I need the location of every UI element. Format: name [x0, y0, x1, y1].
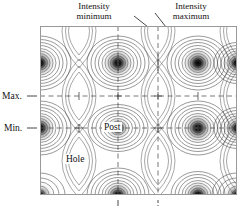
region-label-hole: Hole: [64, 154, 86, 164]
contour-plot-area: Post Hole: [40, 26, 237, 195]
leader-line-maximum: [155, 13, 166, 27]
contour-plot-svg: [40, 26, 237, 195]
blob-core-158-37: [181, 47, 215, 79]
region-label-post: Post: [102, 122, 122, 132]
figure-container: Intensity minimum Intensity maximum Max.…: [0, 0, 251, 212]
